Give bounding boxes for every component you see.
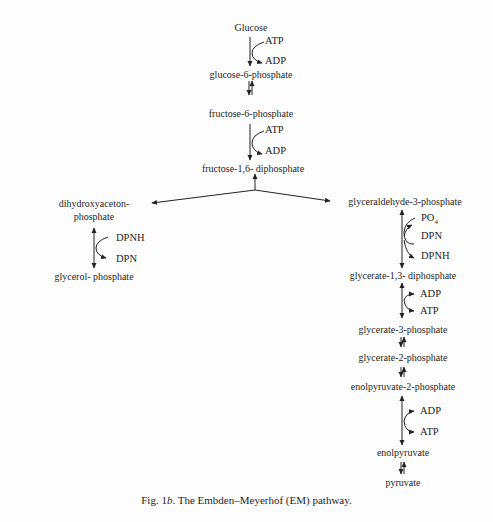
node-fructose-6-phosphate: fructose-6-phosphate bbox=[209, 108, 293, 119]
cofactor-dpn-left: DPN bbox=[116, 253, 137, 264]
node-glycerate-1-3-diphosphate: glycerate-1,3- diphosphate bbox=[350, 270, 457, 281]
cofactor-atp-1: ATP bbox=[265, 35, 284, 46]
cofactor-adp-g13: ADP bbox=[420, 288, 441, 299]
node-pyruvate: pyruvate bbox=[386, 477, 421, 488]
document-page: Glucose ATP ADP glucose-6-phosphate fruc… bbox=[0, 0, 493, 522]
cofactor-adp-1: ADP bbox=[265, 55, 286, 66]
node-glyceraldehyde-3-phosphate: glyceraldehyde-3-phosphate bbox=[348, 196, 461, 207]
figure-caption: Fig. 1b. The Embden–Meyerhof (EM) pathwa… bbox=[0, 494, 493, 506]
node-glycerate-2-phosphate: glycerate-2-phosphate bbox=[359, 352, 448, 363]
node-dihydroxyacetone-phosphate-line2: phosphate bbox=[74, 211, 115, 222]
cofactor-adp-pep: ADP bbox=[420, 405, 441, 416]
node-fructose-1-6-diphosphate: fructose-1,6- diphosphate bbox=[202, 163, 304, 174]
node-glycerol-phosphate: glycerol- phosphate bbox=[54, 271, 133, 282]
cofactor-adp-3: ADP bbox=[265, 145, 286, 156]
node-glucose: Glucose bbox=[235, 22, 268, 33]
cofactor-curve-1 bbox=[252, 42, 264, 63]
arrow-to-gap bbox=[255, 190, 330, 201]
cofactor-atp-3: ATP bbox=[265, 124, 284, 135]
cofactor-po4: PO4 bbox=[421, 212, 438, 226]
cofactor-dpn-right: DPN bbox=[421, 230, 442, 241]
node-glucose-6-phosphate: glucose-6-phosphate bbox=[210, 69, 293, 80]
cofactor-curve-3 bbox=[252, 131, 264, 154]
cofactor-dpnh-right: DPNH bbox=[421, 250, 450, 261]
node-enolpyruvate-2-phosphate: enolpyruvate-2-phosphate bbox=[351, 381, 455, 392]
node-dihydroxyacetone-phosphate-line1: dihydroxyaceton- bbox=[59, 198, 130, 209]
arrow-to-dhap bbox=[152, 190, 255, 203]
node-glycerate-3-phosphate: glycerate-3-phosphate bbox=[359, 324, 448, 335]
cofactor-dpnh-left: DPNH bbox=[116, 232, 145, 243]
node-enolpyruvate: enolpyruvate bbox=[377, 447, 429, 458]
cofactor-atp-g13: ATP bbox=[420, 305, 439, 316]
cofactor-atp-pep: ATP bbox=[420, 426, 439, 437]
